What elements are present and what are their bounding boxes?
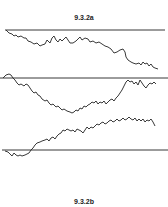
figure-label-b: 9.3.2b <box>0 198 168 205</box>
path-1 <box>6 30 158 69</box>
random-walk-diagram <box>0 0 168 207</box>
path-2 <box>3 74 156 113</box>
